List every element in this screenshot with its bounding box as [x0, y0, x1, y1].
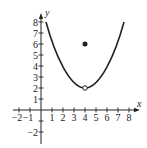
x-tick-labels: −2 −1 1 2 3 4 5 6 7 8 [12, 112, 132, 123]
x-tick-label: 6 [105, 112, 110, 123]
x-tick-label: 2 [61, 112, 66, 123]
y-tick-label: 4 [33, 61, 38, 72]
y-tick-label: 2 [33, 83, 38, 94]
y-tick-label: 7 [33, 28, 38, 39]
y-tick-label: −2 [27, 127, 38, 138]
x-tick-label: 5 [94, 112, 99, 123]
x-tick-label: 8 [127, 112, 132, 123]
y-tick-label: 6 [33, 39, 38, 50]
x-tick-label: 1 [50, 112, 55, 123]
y-tick-label: 1 [33, 94, 38, 105]
x-axis-label: x [136, 98, 142, 109]
x-tick-label: 3 [72, 112, 77, 123]
x-tick-label: −1 [23, 112, 34, 123]
x-tick-label: −2 [12, 112, 23, 123]
parabola-curve [46, 22, 124, 88]
x-tick-label: 4 [83, 112, 88, 123]
y-tick-label: 8 [33, 17, 38, 28]
y-tick-label: 3 [33, 72, 38, 83]
filled-point-marker [83, 42, 88, 47]
function-graph: −2 −1 1 2 3 4 5 6 7 8 1 2 3 4 5 6 7 8 −2… [0, 0, 147, 148]
open-point-marker [83, 86, 88, 91]
y-axis-arrow-icon [39, 13, 43, 19]
x-tick-label: 7 [116, 112, 121, 123]
y-axis-label: y [44, 7, 50, 18]
y-tick-label: 5 [33, 50, 38, 61]
